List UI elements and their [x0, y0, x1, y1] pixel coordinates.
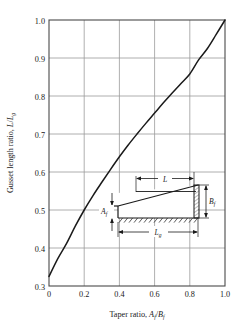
- y-axis-title-prefix: Gusset length ratio,: [6, 127, 15, 193]
- xtick-label: 1.0: [220, 290, 230, 299]
- xtick-label: 0.8: [185, 290, 195, 299]
- xtick-label: 0.2: [79, 290, 89, 299]
- ytick-label: 0.4: [35, 245, 45, 254]
- ytick-label: 0.7: [35, 131, 45, 140]
- Lg-subscript: g: [159, 232, 162, 238]
- column-face-hatched: [194, 185, 199, 218]
- y-axis-title: Gusset length ratio, L/Lg: [6, 113, 16, 193]
- xtick-label: 0.6: [149, 290, 159, 299]
- xtick-label: 0: [47, 290, 51, 299]
- x-axis-title: Taper ratio, Af/Bf: [109, 310, 166, 320]
- ytick-label: 1.0: [35, 17, 45, 26]
- inset-left-flange-background: [128, 179, 136, 219]
- figure-background: [0, 0, 241, 328]
- L-dimension-label: L: [162, 175, 167, 184]
- xtick-label: 0.4: [114, 290, 124, 299]
- ytick-label: 0.8: [35, 93, 45, 102]
- ytick-label: 0.9: [35, 55, 45, 64]
- ytick-label: 0.3: [35, 283, 45, 292]
- ytick-label: 0.5: [35, 207, 45, 216]
- y-axis-title-denominator-subscript: g: [10, 113, 16, 116]
- chart-figure: 1.0 0.9 0.8 0.7 0.6 0.5 0.4 0.3 0 0.2 0.…: [0, 0, 241, 328]
- ytick-label: 0.6: [35, 169, 45, 178]
- x-axis-title-prefix: Taper ratio,: [109, 310, 149, 319]
